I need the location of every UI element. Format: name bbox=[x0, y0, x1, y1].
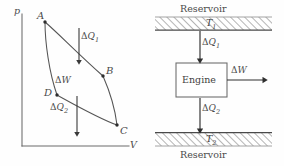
pressure-axis-label: p bbox=[14, 6, 20, 16]
cold-reservoir-label: Reservoir bbox=[180, 150, 226, 160]
point-c-dot bbox=[115, 123, 118, 126]
pv-axes bbox=[22, 14, 129, 146]
hot-reservoir-temperature: T1 bbox=[206, 18, 216, 30]
engine-schematic-panel: Reservoir T1 T2 Reservoir Engine ΔQ1 ΔQ2… bbox=[142, 0, 284, 166]
pv-delta-q1-label: ΔQ1 bbox=[81, 32, 99, 43]
point-a-label: A bbox=[37, 11, 44, 21]
thermodynamics-figure: p V A B C D ΔQ1 ΔW ΔQ2 bbox=[0, 0, 284, 166]
curve-b-to-c bbox=[103, 76, 117, 125]
pv-delta-w-label: ΔW bbox=[55, 76, 71, 85]
point-d-dot bbox=[55, 93, 58, 96]
point-b-dot bbox=[101, 74, 104, 77]
pv-diagram-panel: p V A B C D ΔQ1 ΔW ΔQ2 bbox=[0, 0, 142, 166]
hot-reservoir-label: Reservoir bbox=[180, 4, 226, 14]
point-c-label: C bbox=[120, 126, 128, 136]
pv-diagram-svg bbox=[0, 0, 142, 166]
heat-out-label: ΔQ2 bbox=[202, 104, 220, 115]
pv-delta-q2-label: ΔQ2 bbox=[50, 103, 68, 114]
point-d-label: D bbox=[44, 88, 52, 98]
engine-label: Engine bbox=[182, 75, 216, 85]
point-b-label: B bbox=[106, 66, 113, 76]
heat-in-label: ΔQ1 bbox=[202, 38, 220, 49]
cold-reservoir-temperature: T2 bbox=[206, 134, 216, 146]
work-out-label: ΔW bbox=[231, 66, 247, 75]
volume-axis-label: V bbox=[130, 140, 137, 150]
